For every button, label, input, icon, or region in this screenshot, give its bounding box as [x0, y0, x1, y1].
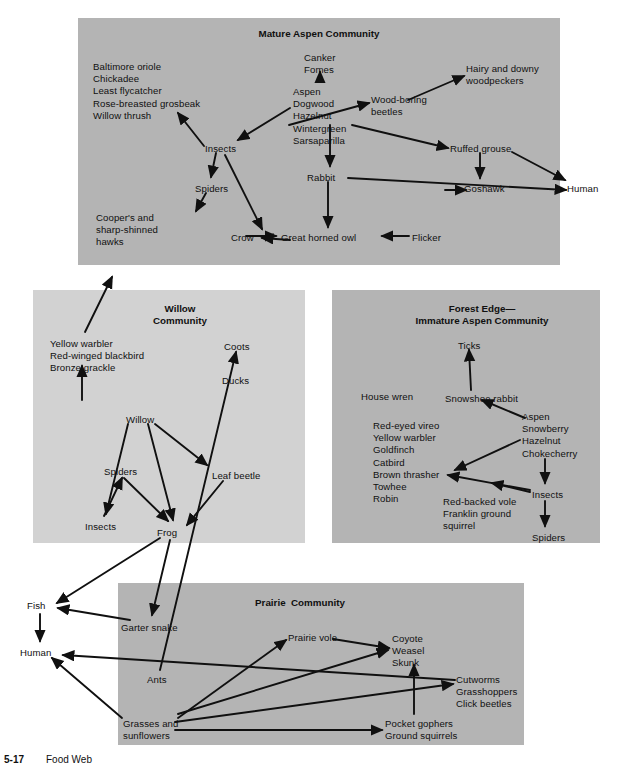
node-rabbit: Rabbit: [307, 172, 335, 184]
node-snowshoe-rabbit: Snowshoe rabbit: [445, 393, 518, 405]
node-aspen-group-edge: Aspen Snowberry Hazelnut Chokecherry: [522, 411, 577, 460]
title-willow: Willow Community: [130, 303, 230, 328]
node-garter-snake: Garter snake: [121, 622, 178, 634]
node-coots: Coots: [224, 341, 250, 353]
node-hairy-downy-woodpeckers: Hairy and downy woodpeckers: [466, 63, 539, 87]
node-spiders-mature: Spiders: [195, 183, 228, 195]
node-coopers-hawks: Cooper's and sharp-shinned hawks: [96, 212, 158, 249]
community-box-willow: [33, 290, 305, 543]
node-pocket-gophers-group: Pocket gophers Ground squirrels: [385, 718, 457, 742]
node-frog: Frog: [157, 527, 177, 539]
node-ants: Ants: [147, 674, 167, 686]
figure-caption-text: Food Web: [46, 754, 92, 765]
node-red-backed-vole-group: Red-backed vole Franklin ground squirrel: [443, 496, 516, 533]
node-great-horned-owl: Great horned owl: [281, 232, 356, 244]
node-red-eyed-vireo-group: Red-eyed vireo Yellow warbler Goldfinch …: [373, 420, 439, 505]
arrow-grasses-sunflowers-to-human-bottom: [52, 658, 122, 718]
node-canker-fomes: Canker Fomes: [304, 52, 336, 76]
node-insects-edge: Insects: [532, 489, 563, 501]
title-forest-edge: Forest Edge— Immature Aspen Community: [392, 303, 572, 328]
node-willow-plant: Willow: [126, 414, 154, 426]
food-web-diagram: Baltimore oriole Chickadee Least flycatc…: [0, 0, 622, 769]
node-crow: Crow: [231, 232, 254, 244]
node-grasses-sunflowers: Grasses and sunflowers: [123, 718, 178, 742]
node-leaf-beetle: Leaf beetle: [212, 470, 261, 482]
node-fish: Fish: [27, 600, 46, 612]
figure-caption-number: 5-17: [4, 754, 24, 765]
node-spiders-willow: Spiders: [104, 466, 137, 478]
title-prairie: Prairie Community: [230, 597, 370, 609]
node-cutworms-group: Cutworms Grasshoppers Click beetles: [456, 674, 517, 711]
node-aspen-group-mature: Aspen Dogwood Hazelnut Wintergreen Sarsa…: [293, 86, 346, 147]
node-prairie-vole: Prairie vole: [288, 632, 337, 644]
node-spiders-edge: Spiders: [532, 532, 565, 544]
node-human-bottom: Human: [20, 647, 51, 659]
node-flicker: Flicker: [412, 232, 441, 244]
node-insects-mature: Insects: [205, 143, 236, 155]
node-ducks: Ducks: [222, 375, 249, 387]
node-ruffed-grouse: Ruffed grouse: [450, 143, 511, 155]
node-insects-willow: Insects: [85, 521, 116, 533]
node-baltimore-group: Baltimore oriole Chickadee Least flycatc…: [93, 61, 200, 122]
node-house-wren: House wren: [361, 391, 413, 403]
node-goshawk: Goshawk: [464, 183, 505, 195]
node-wood-boring-beetles: Wood-boring beetles: [371, 94, 427, 118]
node-coyote-group: Coyote Weasel Skunk: [392, 633, 424, 670]
node-yellow-warbler-group: Yellow warbler Red-winged blackbird Bron…: [50, 338, 144, 375]
node-human-top: Human: [567, 183, 598, 195]
title-mature-aspen: Mature Aspen Community: [205, 28, 433, 40]
node-ticks: Ticks: [458, 340, 481, 352]
